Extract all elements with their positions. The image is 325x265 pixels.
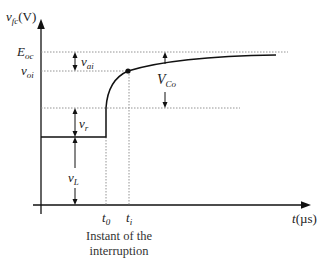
ti-subscript: i: [130, 217, 133, 227]
v-oi-label: voi: [21, 64, 34, 80]
v-r-subscript: r: [85, 123, 89, 133]
t0-subscript: 0: [106, 217, 111, 227]
diagram-canvas: [0, 0, 325, 265]
interruption-caption: Instant of the interruption: [70, 229, 168, 259]
e-oc-label: Eoc: [17, 45, 33, 61]
x-axis-label: t(µs): [292, 212, 317, 225]
y-axis-unit: (V): [18, 9, 36, 24]
v-l-subscript: L: [74, 177, 79, 187]
t0-label: t0: [102, 211, 110, 227]
v-l-label: vL: [68, 171, 79, 187]
e-oc-subscript: oc: [25, 51, 34, 61]
voltage-waveform: [41, 55, 276, 137]
v-co-label: VCo: [157, 73, 176, 89]
v-ai-subscript: ai: [87, 61, 94, 71]
y-axis-label: vfc(V): [6, 10, 36, 26]
v-co-symbol: V: [157, 72, 166, 87]
operating-point-dot: [125, 68, 130, 73]
v-r-label: vr: [79, 117, 88, 133]
v-oi-subscript: oi: [27, 70, 34, 80]
v-co-subscript: Co: [166, 79, 177, 89]
ti-label: ti: [126, 211, 132, 227]
caption-line-2: interruption: [70, 244, 168, 259]
x-axis-unit: (µs): [296, 211, 317, 226]
caption-line-1: Instant of the: [70, 229, 168, 244]
e-oc-symbol: E: [17, 44, 25, 59]
v-ai-label: vai: [81, 55, 94, 71]
